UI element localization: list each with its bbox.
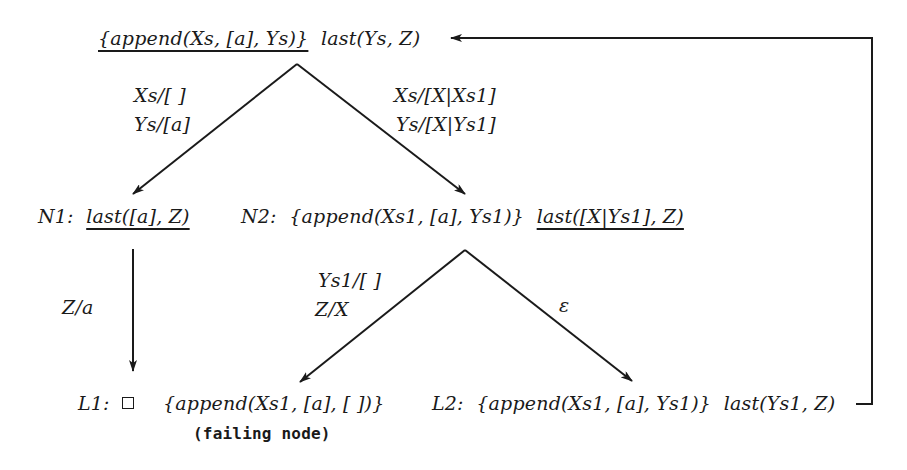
node-l1-label: L1: [78, 392, 110, 414]
edge-label-root-n1-sub2: Ys/[a] [134, 113, 190, 135]
edge-label-n2-failing-sub2: Z/X [315, 298, 349, 320]
edge-label-n1-l1: Z/a [62, 296, 94, 318]
root-rest-goal: last(Ys, Z) [321, 27, 420, 49]
failing-node-note: (failing node) [193, 423, 331, 445]
node-l2: L2: {append(Xs1, [a], Ys1)} last(Ys1, Z) [432, 392, 835, 414]
node-n1-label: N1: [38, 205, 74, 227]
edge-label-n2-failing-sub1: Ys1/[ ] [318, 269, 381, 291]
node-n1-goal: last([a], Z) [86, 205, 189, 227]
node-l2-goal-part2: last(Ys1, Z) [724, 392, 836, 414]
empty-clause-box-icon [122, 397, 134, 409]
node-l1: L1: [78, 392, 134, 414]
root-node: {append(Xs, [a], Ys)} last(Ys, Z) [98, 27, 420, 49]
node-l2-goal-part1: {append(Xs1, [a], Ys1)} [476, 392, 711, 414]
edge-label-n2-l2: ε [559, 294, 569, 316]
root-selected-goal: {append(Xs, [a], Ys)} [98, 27, 308, 49]
failing-node-goal: {append(Xs1, [a], [ ])} [163, 392, 384, 414]
node-n2: N2: {append(Xs1, [a], Ys1)} last([X|Ys1]… [241, 205, 684, 227]
node-l2-label: L2: [432, 392, 464, 414]
node-n2-goal-part1: {append(Xs1, [a], Ys1)} [289, 205, 524, 227]
edge-label-root-n2-sub1: Xs/[X|Xs1] [394, 84, 496, 106]
edge-label-root-n1-sub1: Xs/[ ] [134, 84, 186, 106]
node-n2-goal-part2: last([X|Ys1], Z) [537, 205, 684, 227]
edge-n2-to-l2 [465, 250, 632, 381]
derivation-tree-diagram: {append(Xs, [a], Ys)} last(Ys, Z) Xs/[ ]… [0, 0, 907, 470]
edge-label-root-n2-sub2: Ys/[X|Ys1] [396, 113, 496, 135]
node-n1: N1: last([a], Z) [38, 205, 190, 227]
node-n2-label: N2: [241, 205, 277, 227]
